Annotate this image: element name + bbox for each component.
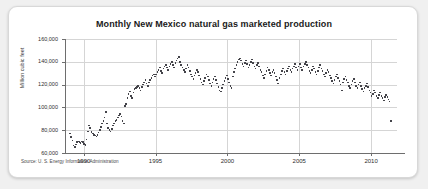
data-point: [211, 85, 213, 87]
data-point: [179, 61, 181, 63]
data-point: [353, 78, 355, 80]
data-point: [145, 79, 147, 81]
data-point: [301, 69, 303, 71]
data-point: [352, 80, 354, 82]
data-point: [237, 61, 239, 63]
data-point: [203, 80, 205, 82]
data-point: [220, 91, 222, 93]
data-point: [227, 78, 229, 80]
data-point: [86, 139, 88, 141]
data-point: [276, 79, 278, 81]
data-point: [378, 94, 380, 96]
data-point: [103, 120, 105, 122]
data-point: [195, 72, 197, 74]
data-point: [316, 74, 318, 76]
data-point: [294, 63, 296, 65]
data-point: [342, 82, 344, 84]
data-point: [200, 78, 202, 80]
data-point: [292, 68, 294, 70]
data-point: [274, 72, 276, 74]
y-axis-tick-label: 100,000: [24, 104, 58, 110]
data-point: [212, 82, 214, 84]
data-point: [142, 84, 144, 86]
x-axis-tick-label: 2010: [356, 158, 386, 164]
data-point: [256, 64, 258, 66]
data-point: [157, 71, 159, 73]
data-point: [255, 68, 257, 70]
data-point: [148, 82, 150, 84]
data-point: [279, 77, 281, 79]
data-point: [264, 74, 266, 76]
data-point: [218, 86, 220, 88]
data-point: [173, 67, 175, 69]
grid-line-vertical: [299, 39, 300, 153]
data-point: [69, 133, 71, 135]
data-point: [363, 91, 365, 93]
data-point: [124, 105, 126, 107]
data-point: [359, 82, 361, 84]
data-point: [233, 71, 235, 73]
data-point: [351, 84, 353, 86]
data-point: [100, 126, 102, 128]
data-point: [249, 64, 251, 66]
grid-line-vertical: [227, 39, 228, 153]
data-point: [167, 69, 169, 71]
data-point: [330, 77, 332, 79]
data-point: [364, 87, 366, 89]
data-point: [151, 77, 153, 79]
data-point: [252, 62, 254, 64]
data-point: [117, 117, 119, 119]
data-point: [303, 66, 305, 68]
data-point: [377, 97, 379, 99]
grid-line-horizontal: [65, 62, 397, 63]
data-point: [313, 68, 315, 70]
data-point: [297, 69, 299, 71]
data-point: [347, 82, 349, 84]
data-point: [101, 123, 103, 125]
data-point: [193, 78, 195, 80]
data-point: [72, 140, 74, 142]
data-point: [305, 61, 307, 63]
data-point: [106, 123, 108, 125]
data-point: [308, 67, 310, 69]
data-point: [245, 60, 247, 62]
data-point: [266, 70, 268, 72]
data-point: [371, 95, 373, 97]
data-point: [214, 76, 216, 78]
data-point: [287, 68, 289, 70]
data-point: [87, 131, 89, 133]
data-point: [155, 74, 157, 76]
data-point: [111, 128, 113, 130]
data-point: [319, 64, 321, 66]
data-point: [207, 76, 209, 78]
data-point: [208, 79, 210, 81]
chart-card: Monthly New Mexico natural gas marketed …: [8, 6, 418, 178]
chart-plot-area: Million cubic feet 160,000140,000120,000…: [9, 7, 418, 178]
data-point: [85, 144, 87, 146]
data-point: [349, 87, 351, 89]
data-point: [354, 82, 356, 84]
data-point: [244, 62, 246, 64]
data-point: [105, 111, 107, 113]
data-point: [116, 119, 118, 121]
data-point: [189, 70, 191, 72]
data-point: [97, 134, 99, 136]
data-point: [243, 66, 245, 68]
data-point: [70, 136, 72, 138]
data-point: [336, 74, 338, 76]
data-point: [390, 120, 392, 122]
data-point: [110, 131, 112, 133]
data-point: [333, 83, 335, 85]
data-point: [147, 85, 149, 87]
data-point: [341, 90, 343, 92]
data-point: [226, 75, 228, 77]
data-point: [140, 90, 142, 92]
data-point: [389, 101, 391, 103]
data-point: [268, 69, 270, 71]
data-point: [178, 56, 180, 58]
data-point: [176, 60, 178, 62]
data-point: [281, 70, 283, 72]
data-point: [121, 116, 123, 118]
data-point: [277, 83, 279, 85]
data-point: [163, 68, 165, 70]
